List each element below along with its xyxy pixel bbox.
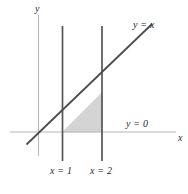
x-axis-label: x [178, 133, 183, 143]
math-figure: y x y = x y = 0 x = 1 x = 2 [0, 0, 188, 194]
vertical-line-x1-label: x = 1 [50, 166, 72, 176]
diagonal-line-label: y = x [133, 20, 155, 30]
vertical-line-x2-label: x = 2 [90, 166, 112, 176]
horizontal-line-label: y = 0 [126, 119, 148, 129]
shaded-region [63, 93, 103, 133]
y-axis-label: y [35, 4, 40, 14]
